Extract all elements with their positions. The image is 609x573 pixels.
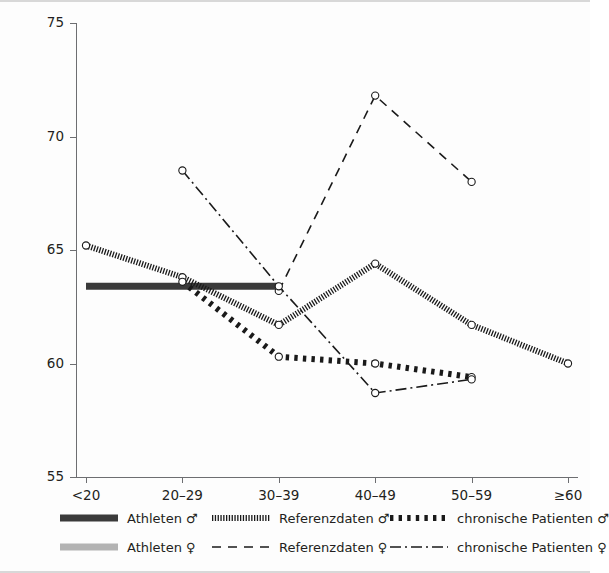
legend-swatch [388,510,450,526]
data-point-marker [468,321,475,328]
legend-item: Athleten ♂ [58,505,198,531]
x-tick-label: 20–29 [142,487,222,503]
x-tick [472,477,473,483]
legend-item: Athleten ♀ [58,534,196,560]
series-dash-dot [179,167,475,397]
series-line [279,96,472,291]
data-point-marker [468,374,475,381]
legend-label: Referenzdaten ♂ [279,511,389,526]
data-point-marker [179,278,186,285]
x-axis-line [76,477,578,478]
data-point-marker [179,274,186,281]
data-point-marker [275,287,282,294]
x-tick-label: ≥60 [528,487,608,503]
data-point-marker [275,321,282,328]
legend: Athleten ♂Referenzdaten ♂chronische Pati… [58,505,578,567]
series-thick-dotted [179,278,475,381]
data-point-marker [564,360,571,367]
series-dashed [275,92,475,295]
legend-label: chronische Patienten ♂ [457,511,609,526]
data-point-marker [275,283,282,290]
legend-item: Referenzdaten ♂ [210,505,389,531]
y-tick-label: 55 [24,468,64,484]
legend-swatch-container [388,539,450,555]
y-tick [70,250,76,251]
legend-label: Referenzdaten ♀ [279,540,387,555]
data-point-marker [468,376,475,383]
legend-label: Athleten ♂ [127,511,198,526]
data-point-marker [275,353,282,360]
x-tick-label: <20 [46,487,126,503]
data-point-marker [372,260,379,267]
series-line [182,282,471,377]
series-line [182,171,471,394]
top-divider [0,0,590,2]
legend-swatch [210,539,272,555]
legend-swatch-container [58,510,120,526]
legend-swatch [58,539,120,555]
y-tick [70,137,76,138]
x-tick [568,477,569,483]
data-point-marker [468,178,475,185]
data-point-marker [372,389,379,396]
series-line [86,246,568,364]
legend-swatch-container [210,510,272,526]
y-axis-line [76,23,77,478]
legend-swatch-container [210,539,272,555]
legend-swatch-container [58,539,120,555]
y-tick [70,23,76,24]
x-tick-label: 40–49 [335,487,415,503]
data-point-marker [82,242,89,249]
y-tick [70,477,76,478]
x-tick-label: 50–59 [432,487,512,503]
y-tick-label: 75 [24,14,64,30]
legend-swatch-container [388,510,450,526]
y-tick [70,364,76,365]
y-tick-label: 65 [24,241,64,257]
series-dense-hatch [82,242,571,367]
y-tick-label: 70 [24,128,64,144]
legend-swatch [210,510,272,526]
data-point-marker [372,360,379,367]
x-tick [375,477,376,483]
legend-label: chronische Patienten ♀ [457,540,607,555]
data-point-marker [179,167,186,174]
legend-item: chronische Patienten ♀ [388,534,607,560]
x-tick [86,477,87,483]
legend-item: chronische Patienten ♂ [388,505,609,531]
legend-swatch [58,510,120,526]
legend-item: Referenzdaten ♀ [210,534,387,560]
y-tick-label: 60 [24,355,64,371]
legend-label: Athleten ♀ [127,540,196,555]
x-tick-label: 30–39 [239,487,319,503]
x-tick [279,477,280,483]
data-point-marker [372,92,379,99]
legend-swatch [388,539,450,555]
x-tick [182,477,183,483]
